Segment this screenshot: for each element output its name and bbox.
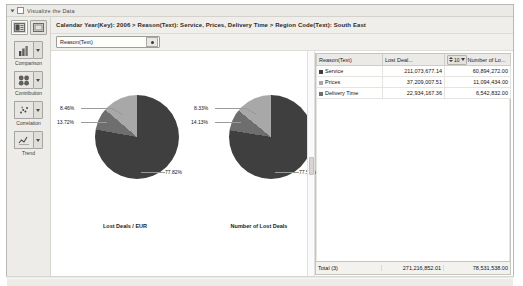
data-table: Reason(Text) Lost Deal...	[316, 54, 511, 99]
dropdown-dot-icon	[151, 41, 154, 44]
chevron-down-icon	[36, 109, 40, 112]
pie1-leader-2	[81, 122, 107, 123]
sidebar-item-trend[interactable]: Trend	[14, 131, 43, 156]
main-pane: Calendar Year(Key): 2006 > Reason(Text):…	[51, 17, 513, 277]
arrow-down-icon	[449, 60, 453, 62]
sidebar-item-comparison[interactable]: Comparison	[14, 41, 43, 66]
correlation-dropdown-arrow[interactable]	[33, 101, 43, 119]
dimension-select[interactable]: Reason(Text)	[56, 36, 160, 48]
chevron-down-icon	[36, 79, 40, 82]
drag-grip-icon	[309, 157, 314, 175]
column-header-number-lost[interactable]: 10 Number of Lo...	[445, 54, 511, 66]
pie2-leader-2	[215, 122, 241, 123]
pie2-leader-1	[215, 108, 247, 109]
pie1-leader-3	[141, 172, 165, 173]
layout-toolbar	[11, 20, 47, 35]
comparison-dropdown-arrow[interactable]	[33, 41, 43, 59]
total-label: Total (3)	[316, 265, 382, 271]
pie1-label-service: 77.82%	[165, 169, 182, 175]
table-total-row: Total (3) 271,216,852.01 78,531,538.00	[316, 261, 510, 274]
pie1-leader-1	[81, 108, 113, 109]
pie1-label-prices: 13.72%	[57, 119, 74, 125]
row-value-number-lost: 11,094,434.00	[445, 77, 511, 88]
data-table-pane: Reason(Text) Lost Deal...	[315, 53, 511, 275]
sidebar-item-correlation[interactable]: Correlation	[14, 101, 43, 126]
sidebar-label-correlation: Correlation	[16, 120, 40, 126]
breadcrumb[interactable]: Calendar Year(Key): 2006 > Reason(Text):…	[56, 22, 366, 28]
line-chart-icon[interactable]	[14, 131, 33, 149]
arrow-up-icon	[449, 57, 453, 59]
table-row[interactable]: Prices 37,209,007.51 11,094,434.00	[317, 77, 511, 88]
sidebar-label-contribution: Contribution	[15, 90, 42, 96]
sidebar-label-trend: Trend	[22, 150, 35, 156]
row-value-number-lost: 6,542,832.00	[445, 88, 511, 99]
window-titlebar: Visualize the Data	[7, 5, 513, 17]
table-row[interactable]: Delivery Time 22,934,167.36 6,542,832.00	[317, 88, 511, 99]
row-value-lost-deal: 211,073,677.14	[383, 66, 445, 77]
checkbox-icon[interactable]	[17, 7, 24, 14]
pie-chart-lost-deals-eur[interactable]: 8.46% 13.72% 77.82% Lost Deals / EUR	[57, 57, 193, 253]
dimension-selector-bar: Reason(Text)	[51, 34, 513, 51]
window-title: Visualize the Data	[27, 8, 75, 14]
sidebar-label-comparison: Comparison	[15, 60, 42, 66]
bar-chart-icon[interactable]	[14, 41, 33, 59]
pie2-label-delivery: 8.33%	[194, 105, 208, 111]
table-empty-area	[316, 99, 510, 261]
dropdown-button-icon[interactable]	[146, 37, 158, 47]
table-row[interactable]: Service 211,073,677.14 60,894,272.00	[317, 66, 511, 77]
breadcrumb-bar: Calendar Year(Key): 2006 > Reason(Text):…	[51, 17, 513, 34]
row-label: Service	[325, 68, 343, 74]
dimension-select-value: Reason(Text)	[57, 39, 146, 45]
layout-split-icon[interactable]	[11, 20, 28, 35]
triangle-right-icon[interactable]	[11, 9, 15, 12]
column-header-number-lost-label: Number of Lo...	[468, 57, 506, 63]
visualize-data-window: Visualize the Data Comparison	[6, 4, 514, 276]
chevron-down-icon	[36, 139, 40, 142]
spinner-arrows-icon[interactable]	[449, 57, 453, 62]
column-header-lost-deal[interactable]: Lost Deal...	[383, 54, 445, 66]
total-number-lost: 78,531,538.00	[444, 265, 510, 271]
row-value-lost-deal: 22,934,167.36	[383, 88, 445, 99]
pie2-leader-3	[275, 172, 299, 173]
pie2-label-prices: 14.13%	[191, 119, 208, 125]
trend-dropdown-arrow[interactable]	[33, 131, 43, 149]
window-body: Comparison Contribution Co	[7, 17, 513, 277]
row-label: Delivery Time	[325, 90, 358, 96]
pie-grid-icon[interactable]	[14, 71, 33, 89]
table-body: Service 211,073,677.14 60,894,272.00 Pri…	[317, 66, 511, 99]
window-shadow	[6, 276, 514, 279]
scatter-plot-icon[interactable]	[14, 101, 33, 119]
top-n-value: 10	[454, 57, 460, 63]
top-n-spinner[interactable]: 10	[447, 55, 467, 65]
layout-single-icon[interactable]	[30, 20, 47, 35]
table-header-row: Reason(Text) Lost Deal...	[317, 54, 511, 66]
row-label: Prices	[325, 79, 340, 85]
chart-pane: 8.46% 13.72% 77.82% Lost Deals / EUR 8.3…	[51, 51, 307, 277]
pie1-label-delivery: 8.46%	[60, 105, 74, 111]
row-value-number-lost: 60,894,272.00	[445, 66, 511, 77]
sidebar-item-contribution[interactable]: Contribution	[14, 71, 43, 96]
row-value-lost-deal: 37,209,007.51	[383, 77, 445, 88]
chart-type-rail: Comparison Contribution Co	[7, 17, 51, 277]
content-panes: 8.46% 13.72% 77.82% Lost Deals / EUR 8.3…	[51, 51, 513, 277]
chevron-down-icon[interactable]	[461, 58, 465, 61]
pane-splitter[interactable]	[307, 51, 315, 277]
contribution-dropdown-arrow[interactable]	[33, 71, 43, 89]
chevron-down-icon	[36, 49, 40, 52]
pie1-title: Lost Deals / EUR	[57, 223, 193, 229]
total-lost-deal: 271,216,852.01	[382, 265, 444, 271]
